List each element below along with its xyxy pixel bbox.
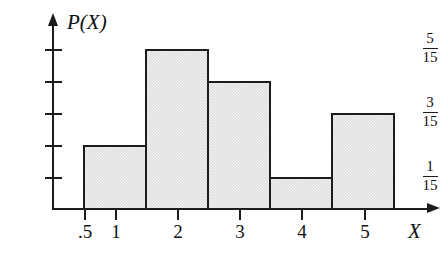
- histogram-bar: [331, 113, 396, 210]
- histogram-bar: [83, 145, 148, 210]
- probability-histogram-figure: P(X) X 5 15 3 15 1 15 .5 1 2 3 4 5: [0, 0, 448, 256]
- histogram-bar: [145, 49, 210, 210]
- histogram-bars: [0, 0, 448, 256]
- histogram-bar: [269, 177, 334, 210]
- histogram-bar: [207, 81, 272, 210]
